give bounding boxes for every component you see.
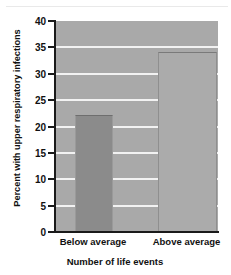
- y-tick-mark: [48, 152, 55, 154]
- y-tick-mark: [48, 20, 55, 22]
- y-tick-mark: [48, 126, 55, 128]
- y-tick-mark: [48, 178, 55, 180]
- y-tick-label: 25: [0, 95, 46, 106]
- y-tick-label: 35: [0, 42, 46, 53]
- y-tick-mark: [48, 231, 55, 233]
- y-tick-mark: [48, 73, 55, 75]
- y-tick-label: 30: [0, 68, 46, 79]
- y-tick-label: 5: [0, 200, 46, 211]
- y-axis-tick-labels: 0510152025303540: [0, 0, 46, 275]
- y-tick-label: 15: [0, 147, 46, 158]
- gridline: [55, 46, 218, 48]
- plot-area: [55, 21, 218, 232]
- y-tick-label: 40: [0, 16, 46, 27]
- y-tick-label: 10: [0, 174, 46, 185]
- x-tick-label-0: Below average: [43, 236, 143, 247]
- y-tick-mark: [48, 46, 55, 48]
- x-tick-label-1: Above average: [137, 236, 231, 247]
- y-tick-label: 20: [0, 121, 46, 132]
- x-axis-line: [54, 231, 219, 233]
- chart-figure: Percent with upper respiratory infection…: [0, 0, 230, 275]
- y-tick-mark: [48, 205, 55, 207]
- y-tick-mark: [48, 99, 55, 101]
- x-axis-title: Number of life events: [0, 256, 230, 267]
- bar-0: [75, 115, 113, 232]
- bar-1: [158, 52, 217, 232]
- y-tick-label: 0: [0, 227, 46, 238]
